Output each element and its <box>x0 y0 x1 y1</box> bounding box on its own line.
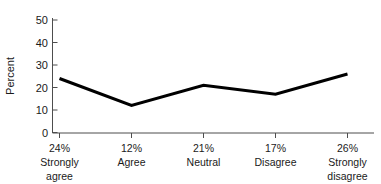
line-chart: 50 40 30 20 10 0 Percent 24% Strongly ag… <box>0 0 381 184</box>
x-label-0-line2: agree <box>46 170 73 182</box>
x-label-0-line1: Strongly <box>40 156 79 168</box>
x-label-3-percent: 17% <box>265 142 286 154</box>
x-label-2-line1: Neutral <box>187 156 221 168</box>
y-tick-label-20: 20 <box>36 82 48 94</box>
x-label-2-percent: 21% <box>193 142 214 154</box>
y-tick-label-0: 0 <box>42 127 48 139</box>
chart-canvas: 50 40 30 20 10 0 Percent 24% Strongly ag… <box>0 0 381 184</box>
x-label-4-line1: Strongly <box>328 156 367 168</box>
y-axis-tick-labels: 50 40 30 20 10 0 <box>36 14 48 139</box>
y-axis-title: Percent <box>4 57 16 95</box>
x-label-1-line1: Agree <box>117 156 145 168</box>
data-series-percent <box>60 74 348 106</box>
x-label-3-line1: Disagree <box>254 156 296 168</box>
y-tick-label-40: 40 <box>36 37 48 49</box>
x-label-4-line2: disagree <box>327 170 367 182</box>
x-label-0-percent: 24% <box>49 142 70 154</box>
x-label-4-percent: 26% <box>337 142 358 154</box>
x-label-1-percent: 12% <box>121 142 142 154</box>
x-axis-tick-labels: 24% Strongly agree 12% Agree 21% Neutral… <box>40 142 368 182</box>
y-axis-ticks <box>53 20 58 133</box>
x-axis-ticks <box>60 133 348 138</box>
y-tick-label-30: 30 <box>36 59 48 71</box>
y-tick-label-10: 10 <box>36 104 48 116</box>
y-tick-label-50: 50 <box>36 14 48 26</box>
